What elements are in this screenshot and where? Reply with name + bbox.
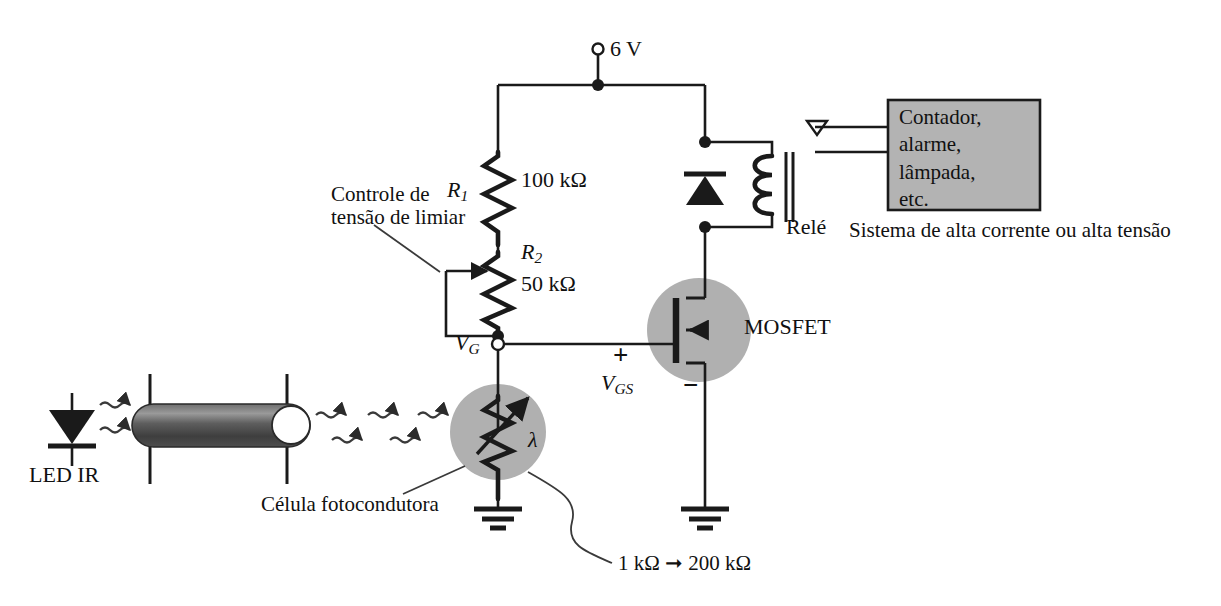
resistance-range-label: 1 kΩ ➞ 200 kΩ	[618, 552, 751, 575]
r2-designator: R2	[521, 240, 542, 267]
relay-coil	[705, 142, 793, 227]
potentiometer-wiper[interactable]	[446, 271, 498, 336]
infrared-led-symbol	[48, 393, 96, 466]
light-guide-tube	[132, 374, 310, 484]
led-label: LED IR	[29, 463, 99, 487]
resistor-r1	[484, 152, 512, 245]
relay-label: Relé	[786, 215, 826, 239]
ground-mosfet-source	[681, 499, 729, 528]
leader-threshold-control	[374, 225, 440, 272]
photocell-caption: Célula fotocondutora	[261, 493, 439, 516]
leader-resistance-range	[528, 472, 612, 563]
r2-value: 50 kΩ	[521, 272, 576, 296]
supply-terminal	[593, 44, 604, 86]
tube-end-aperture	[272, 406, 310, 444]
supply-voltage-label: 6 V	[610, 37, 642, 61]
vgs-plus-sign: +	[613, 341, 628, 370]
flyback-diode	[684, 136, 726, 233]
circuit-figure: 6 V R1 100 kΩ R2 50 kΩ Controle de tensã…	[0, 0, 1221, 606]
leader-photocell-caption	[403, 466, 465, 494]
load-block-text: Contador, alarme, lâmpada, etc.	[899, 104, 1039, 213]
vgs-label: VGS	[601, 371, 633, 398]
r1-value: 100 kΩ	[521, 168, 587, 192]
top-rail-wire	[498, 79, 705, 152]
threshold-control-line-2: tensão de limiar	[331, 206, 465, 229]
high-power-caption: Sistema de alta corrente ou alta tensão	[849, 219, 1171, 242]
relay-contact-wires	[807, 121, 888, 152]
vgs-minus-sign: −	[683, 371, 698, 400]
schematic-drawing	[0, 0, 1221, 606]
gate-node-label: VG	[455, 331, 480, 358]
mosfet-label: MOSFET	[744, 315, 831, 339]
threshold-control-line-1: Controle de	[331, 183, 465, 206]
threshold-control-label: Controle de tensão de limiar	[331, 183, 465, 228]
resistor-r2-potentiometer	[484, 252, 512, 336]
ground-photocell	[474, 499, 522, 528]
wavelength-label: λ	[528, 428, 538, 452]
